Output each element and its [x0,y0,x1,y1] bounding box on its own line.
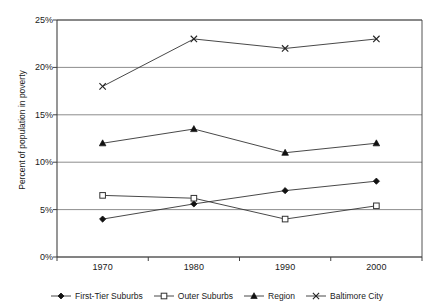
legend-item-label: Outer Suburbs [178,291,233,301]
legend-item-label: Region [268,291,295,301]
poverty-line-chart: Percent of population in poverty 0%5%10%… [0,0,433,308]
chart-legend: First-Tier SuburbsOuter SuburbsRegionBal… [0,288,433,304]
open-square-marker [282,216,288,222]
series-line [103,195,377,219]
legend-item[interactable]: Outer Suburbs [153,291,233,301]
filled-triangle-marker [191,126,198,132]
legend-item[interactable]: Baltimore City [305,291,383,301]
legend-item-label: First-Tier Suburbs [75,291,143,301]
filled-diamond-marker [100,216,106,222]
filled-diamond-marker [191,201,197,207]
legend-item[interactable]: First-Tier Suburbs [50,291,143,301]
open-square-marker [100,193,106,199]
cross-x-marker [305,291,327,301]
filled-triangle-marker [243,291,265,301]
filled-triangle-marker [373,140,380,146]
legend-item[interactable]: Region [243,291,295,301]
filled-diamond-marker [50,291,72,301]
filled-diamond-marker [282,188,288,194]
plot-area [0,0,433,308]
legend-item-label: Baltimore City [330,291,383,301]
series-line [103,129,377,153]
open-square-marker [153,291,175,301]
filled-diamond-marker [373,178,379,184]
open-square-marker [191,195,197,201]
series-line [103,181,377,219]
series-line [103,39,377,86]
open-square-marker [374,203,380,209]
